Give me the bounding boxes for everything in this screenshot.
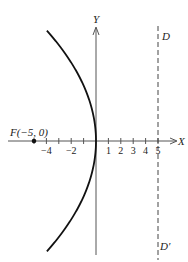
x-tick-label: −2 bbox=[66, 145, 77, 156]
y-axis-label: Y bbox=[93, 13, 101, 25]
focus-label: F(−5, 0) bbox=[9, 126, 48, 139]
x-tick-label: 3 bbox=[131, 145, 136, 156]
x-tick-label: 1 bbox=[106, 145, 111, 156]
x-tick-label: 2 bbox=[118, 145, 123, 156]
x-tick-labels: −4−212345 bbox=[41, 145, 160, 156]
x-axis-label: X bbox=[177, 135, 186, 147]
x-tick-label: −4 bbox=[41, 145, 52, 156]
directrix-bottom-label: D′ bbox=[159, 240, 171, 252]
x-tick-label: 4 bbox=[143, 145, 148, 156]
parabola-diagram: X Y −4−212345 D D′ F(−5, 0) bbox=[0, 0, 188, 262]
directrix-top-label: D bbox=[161, 30, 170, 42]
focus-point bbox=[32, 139, 37, 144]
